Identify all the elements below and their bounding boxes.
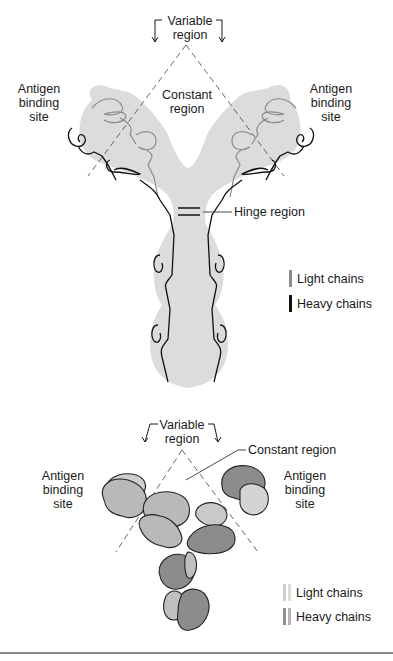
- constant-region-label-bottom: Constant region: [248, 443, 336, 457]
- antibody-lobes-bottom: [102, 466, 268, 631]
- legend-heavy-chains-bottom: Heavy chains: [283, 608, 371, 625]
- binding-word: binding: [14, 96, 64, 110]
- antigen-binding-site-label-top-right: Antigen binding site: [306, 82, 356, 124]
- legend-label: Light chains: [296, 586, 363, 600]
- swatch-bar: [283, 584, 286, 601]
- constant-line1: Constant: [156, 88, 218, 102]
- antigen-word: Antigen: [306, 82, 356, 96]
- antigen-binding-site-label-bottom-right: Antigen binding site: [280, 469, 330, 511]
- antigen-word: Antigen: [280, 469, 330, 483]
- variable-line2: region: [156, 432, 208, 446]
- legend-label: Light chains: [297, 272, 364, 286]
- hinge-region-label: Hinge region: [234, 205, 305, 219]
- site-word: site: [38, 497, 88, 511]
- constant-line2: region: [156, 102, 218, 116]
- heavy-chain-swatch: [283, 608, 291, 625]
- antigen-word: Antigen: [38, 469, 88, 483]
- legend-heavy-chains-top: Heavy chains: [289, 295, 372, 312]
- binding-word: binding: [306, 96, 356, 110]
- heavy-chain-swatch: [289, 295, 292, 312]
- light-chain-swatch: [289, 270, 292, 287]
- binding-word: binding: [280, 483, 330, 497]
- variable-line1: Variable: [164, 14, 216, 28]
- constant-region-label-top: Constant region: [156, 88, 218, 116]
- swatch-bar: [283, 608, 286, 625]
- binding-word: binding: [38, 483, 88, 497]
- variable-line1: Variable: [156, 418, 208, 432]
- variable-line2: region: [164, 28, 216, 42]
- legend-light-chains-top: Light chains: [289, 270, 364, 287]
- variable-region-label-bottom: Variable region: [156, 418, 208, 446]
- legend-light-chains-bottom: Light chains: [283, 584, 363, 601]
- light-chain-swatch: [283, 584, 291, 601]
- antigen-word: Antigen: [14, 82, 64, 96]
- swatch-bar: [288, 584, 291, 601]
- site-word: site: [280, 497, 330, 511]
- bottom-divider: [0, 652, 393, 654]
- site-word: site: [14, 110, 64, 124]
- antigen-binding-site-label-bottom-left: Antigen binding site: [38, 469, 88, 511]
- swatch-bar: [288, 608, 291, 625]
- legend-label: Heavy chains: [296, 610, 371, 624]
- variable-region-label-top: Variable region: [164, 14, 216, 42]
- legend-label: Heavy chains: [297, 297, 372, 311]
- antibody-body-top: [79, 85, 300, 388]
- site-word: site: [306, 110, 356, 124]
- antigen-binding-site-label-top-left: Antigen binding site: [14, 82, 64, 124]
